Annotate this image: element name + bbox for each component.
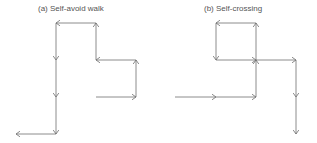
self-crossing-path <box>175 20 299 134</box>
walk-diagram <box>0 0 317 143</box>
self-avoid-walk-path <box>16 20 139 137</box>
